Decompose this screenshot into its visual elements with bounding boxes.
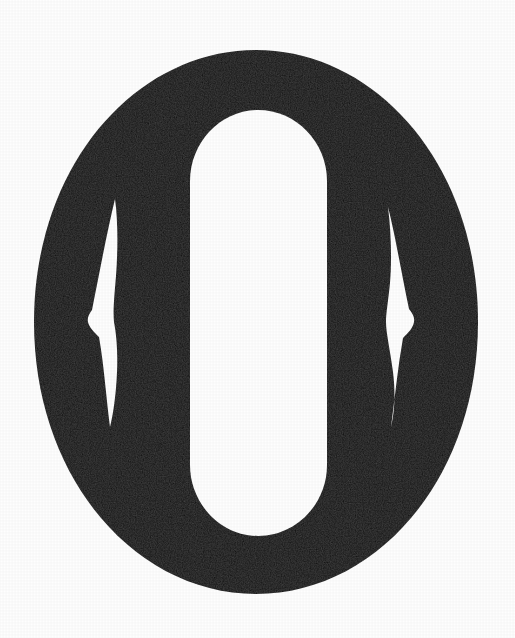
image-canvas: Tsuba Silhouette Solid black oval sword-… xyxy=(0,0,515,638)
print-grain-texture xyxy=(0,0,515,638)
tsuba-silhouette-artwork: Tsuba Silhouette Solid black oval sword-… xyxy=(0,0,515,638)
